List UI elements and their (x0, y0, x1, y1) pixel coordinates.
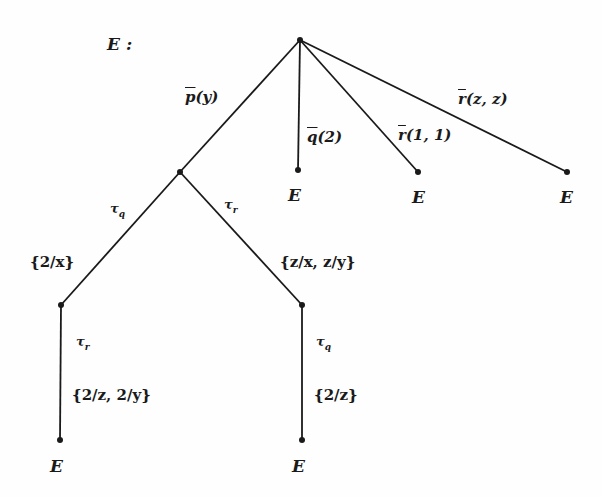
subst-2z-2y: {2/z, 2/y} (72, 388, 151, 403)
node-p (177, 169, 183, 175)
leaf-node-bl (57, 437, 63, 443)
edge-label-tau-r: τr (224, 198, 238, 215)
edge-q (298, 40, 300, 170)
edge-bl (60, 305, 61, 440)
leaf-node-rzz (564, 169, 570, 175)
edge-p (180, 40, 300, 172)
edge-label-tau-q: τq (110, 202, 125, 219)
subst-2z: {2/z} (314, 388, 358, 403)
edge-label-tau-q-lower: τq (316, 335, 331, 352)
leaf-label-rzz: E (560, 189, 573, 206)
leaf-node-br (299, 437, 305, 443)
edge-label-tau-r-lower: τr (76, 335, 90, 352)
leaf-label-r11: E (412, 189, 425, 206)
tree-edges (0, 0, 602, 497)
root-node (297, 37, 303, 43)
edge-rzz (300, 40, 567, 172)
node-tq (58, 302, 64, 308)
subst-zx-zy: {z/x, z/y} (280, 255, 355, 270)
leaf-label-q: E (288, 187, 301, 204)
edge-r11 (300, 40, 418, 172)
edge-tr (180, 172, 302, 305)
leaf-label-br: E (292, 458, 305, 475)
subst-2x: {2/x} (30, 255, 74, 270)
edge-label-rzz: r(z, z) (458, 92, 508, 107)
edge-label-r11: r(1, 1) (398, 128, 451, 143)
edge-label-p: p(y) (185, 90, 218, 105)
leaf-label-bl: E (50, 458, 63, 475)
edge-tq (61, 172, 180, 305)
leaf-node-q (295, 167, 301, 173)
node-tr (299, 302, 305, 308)
leaf-node-r11 (415, 169, 421, 175)
diagram-title: E : (107, 36, 132, 53)
tree-diagram: E : p(y) q(2) r(1, 1) r(z, z) E E E τq τ… (0, 0, 602, 497)
edge-label-q: q(2) (307, 130, 342, 145)
